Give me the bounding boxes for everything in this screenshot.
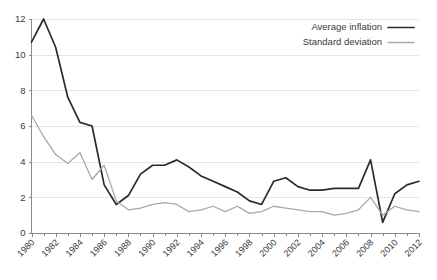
x-axis-tick-labels: 1980198219841986198819901992199419961998… bbox=[15, 237, 424, 258]
series-line-standard-deviation bbox=[32, 115, 420, 215]
chart-legend: Average inflationStandard deviation bbox=[303, 21, 414, 47]
x-tick-label: 1994 bbox=[185, 237, 206, 258]
x-tick-label: 1984 bbox=[64, 237, 85, 258]
x-tick-label: 1982 bbox=[39, 237, 60, 258]
y-tick-label: 2 bbox=[20, 192, 25, 203]
y-tick-label: 4 bbox=[20, 156, 25, 167]
x-tick-label: 2006 bbox=[330, 237, 351, 258]
x-tick-label: 1990 bbox=[136, 237, 157, 258]
series-lines bbox=[32, 19, 420, 222]
x-tick-label: 1988 bbox=[112, 237, 133, 258]
y-tick-label: 6 bbox=[20, 120, 25, 131]
x-tick-label: 1992 bbox=[160, 237, 181, 258]
gridlines bbox=[29, 20, 420, 234]
x-tick-label: 2010 bbox=[378, 237, 399, 258]
x-tick-label: 1996 bbox=[209, 237, 230, 258]
inflation-chart: 024681012 198019821984198619881990199219… bbox=[0, 0, 437, 280]
y-axis-tick-labels: 024681012 bbox=[15, 13, 26, 238]
chart-canvas: 024681012 198019821984198619881990199219… bbox=[0, 0, 437, 280]
y-tick-label: 12 bbox=[15, 13, 26, 24]
y-tick-label: 10 bbox=[15, 49, 26, 60]
x-tick-label: 2004 bbox=[306, 237, 327, 258]
y-tick-label: 0 bbox=[20, 227, 25, 238]
x-tick-label: 1986 bbox=[88, 237, 109, 258]
y-tick-label: 8 bbox=[20, 85, 25, 96]
x-tick-label: 2000 bbox=[257, 237, 278, 258]
x-tick-label: 2012 bbox=[403, 237, 424, 258]
x-tick-label: 2008 bbox=[354, 237, 375, 258]
x-tick-label: 1998 bbox=[233, 237, 254, 258]
legend-label-standard-deviation: Standard deviation bbox=[303, 36, 382, 47]
x-tick-label: 1980 bbox=[15, 237, 36, 258]
series-line-average-inflation bbox=[32, 19, 420, 222]
x-tick-label: 2002 bbox=[282, 237, 303, 258]
legend-label-average-inflation: Average inflation bbox=[311, 21, 382, 32]
